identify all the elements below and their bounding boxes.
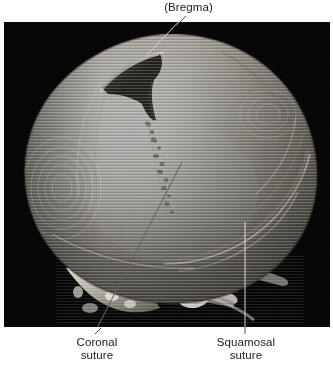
label-squamosal-suture: Squamosal suture — [196, 336, 296, 361]
leader-lines-on-margin — [0, 0, 333, 367]
label-coronal-line2: suture — [47, 349, 147, 362]
bregma-leader — [176, 16, 186, 26]
label-coronal-suture: Coronal suture — [47, 336, 147, 361]
label-bregma: (Bregma) — [0, 1, 333, 14]
label-bregma-text: (Bregma) — [164, 1, 213, 13]
label-squamosal-line1: Squamosal — [196, 336, 296, 349]
label-squamosal-line2: suture — [196, 349, 296, 362]
anatomical-figure: (Bregma) Coronal suture Squamosal suture — [0, 0, 333, 367]
coronal-leader — [95, 328, 101, 334]
label-coronal-line1: Coronal — [47, 336, 147, 349]
